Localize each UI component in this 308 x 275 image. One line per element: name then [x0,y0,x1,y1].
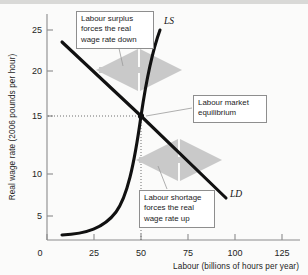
equilibrium-guide-lines [48,116,141,240]
y-axis-ticks [47,30,53,216]
x-tick-125: 125 [274,248,289,258]
ld-curve-label: LD [229,189,242,199]
x-tick-75: 75 [183,248,193,258]
equilibrium-point [138,113,144,119]
annotation-labour-surplus: Labour surplus forces the real wage rate… [76,11,154,49]
x-tick-25: 25 [89,248,99,258]
y-tick-labels: 5 10 15 20 25 [32,25,42,221]
x-tick-50: 50 [136,248,146,258]
x-tick-100: 100 [227,248,242,258]
x-tick-labels: 0 25 50 75 100 125 [37,248,289,258]
ls-curve-label: LS [163,16,174,26]
y-axis-title: Real wage rate (2006 pounds per hour) [8,54,17,201]
y-tick-10: 10 [32,169,42,179]
x-axis-ticks [47,234,282,240]
y-tick-5: 5 [37,211,42,221]
annotation-labour-market-equilibrium: Labour market equilibrium [193,95,267,123]
y-tick-20: 20 [32,66,42,76]
x-axis-title: Labour (billions of hours per year) [173,262,299,271]
y-tick-15: 15 [32,111,42,121]
figure-canvas: 5 10 15 20 25 0 25 50 75 100 125 Real wa… [0,0,308,275]
supply-demand-chart: 5 10 15 20 25 0 25 50 75 100 125 Real wa… [0,0,308,275]
y-tick-25: 25 [32,25,42,35]
annotation-labour-shortage: Labour shortage forces the real wage rat… [139,190,215,228]
x-tick-0: 0 [37,248,42,258]
